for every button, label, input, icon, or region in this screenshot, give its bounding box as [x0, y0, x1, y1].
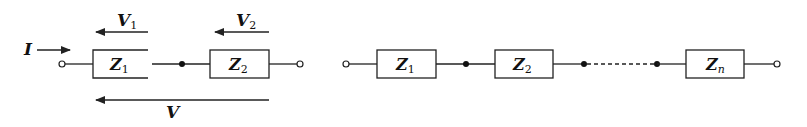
junction-node: [463, 61, 469, 67]
right-circuit: Z1 Z2 Zn: [343, 50, 780, 78]
left-circuit: I Z1 Z2 V1 V2 V: [23, 10, 303, 122]
input-terminal: [343, 61, 349, 67]
input-terminal: [59, 61, 65, 67]
voltage-label-v1: V1: [117, 10, 137, 32]
output-terminal: [297, 61, 303, 67]
impedance-label-z1: Z1: [109, 55, 129, 76]
output-terminal: [774, 61, 780, 67]
voltage-label-v2: V2: [236, 10, 256, 32]
series-impedance-diagram: I Z1 Z2 V1 V2 V Z1 Z2: [0, 0, 807, 127]
total-voltage-label: V: [166, 102, 181, 122]
junction-node: [179, 61, 185, 67]
junction-node: [581, 61, 587, 67]
current-label: I: [23, 39, 33, 59]
